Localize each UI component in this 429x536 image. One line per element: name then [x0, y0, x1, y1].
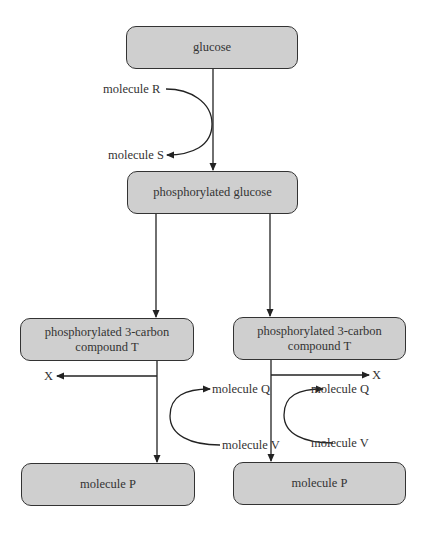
- node-glucose: glucose: [126, 26, 298, 69]
- node-compound-t-right-line2: compound T: [288, 339, 351, 354]
- label-x-left: X: [44, 369, 53, 383]
- node-molecule-p-left-label: molecule P: [80, 477, 136, 492]
- node-compound-t-left-line1: phosphorylated 3-carbon: [45, 325, 170, 340]
- label-molecule-r: molecule R: [103, 82, 160, 96]
- node-molecule-p-right-label: molecule P: [292, 476, 348, 491]
- label-molecule-s: molecule S: [108, 148, 164, 162]
- label-molecule-q-right: molecule Q: [311, 382, 369, 396]
- node-phosphorylated-glucose-label: phosphorylated glucose: [153, 185, 271, 200]
- node-compound-t-right: phosphorylated 3-carbon compound T: [233, 317, 406, 360]
- label-molecule-q-left: molecule Q: [212, 382, 270, 396]
- node-glucose-label: glucose: [193, 40, 231, 55]
- node-compound-t-left: phosphorylated 3-carbon compound T: [20, 318, 194, 361]
- connector-lines: [0, 0, 429, 536]
- node-phosphorylated-glucose: phosphorylated glucose: [127, 171, 298, 214]
- node-compound-t-right-line1: phosphorylated 3-carbon: [257, 324, 382, 339]
- node-compound-t-left-line2: compound T: [75, 340, 138, 355]
- label-molecule-v-right: molecule V: [311, 436, 369, 450]
- label-molecule-v-left: molecule V: [222, 438, 280, 452]
- node-molecule-p-right: molecule P: [233, 462, 406, 505]
- label-x-right: X: [372, 368, 381, 382]
- node-molecule-p-left: molecule P: [21, 463, 195, 506]
